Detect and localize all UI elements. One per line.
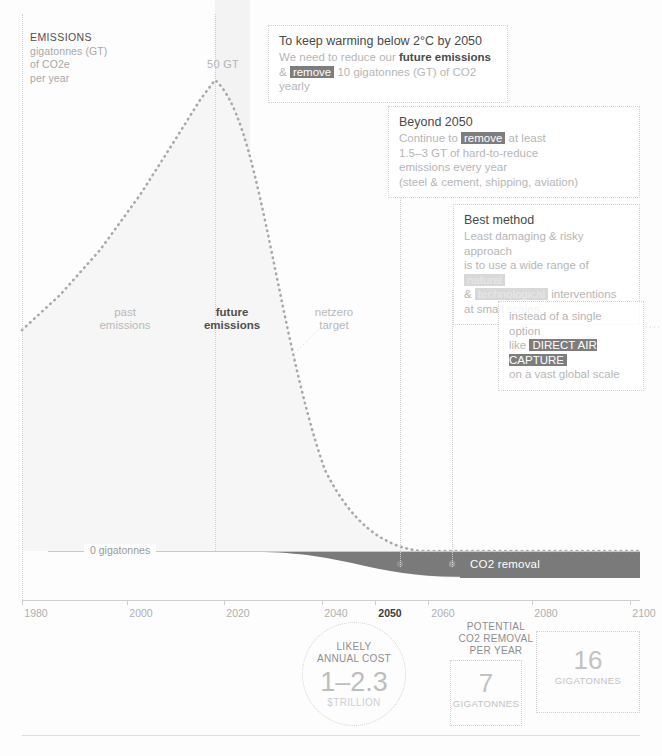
callout-best-line3-a: is to use a wide range of <box>464 259 589 271</box>
region-netzero-line1: netzero <box>291 306 377 319</box>
callout-warming-line3-a: & <box>279 66 290 78</box>
guide-left-edge <box>22 14 23 602</box>
callout-warming-line3: & remove 10 gigatonnes (GT) of CO2 yearl… <box>279 65 497 94</box>
callout-beyond-line4: emissions every year <box>399 160 629 175</box>
callout-best-line4-b: interventions <box>548 288 616 300</box>
x-tick-2080 <box>532 600 533 605</box>
callout-best-line4: & technological interventions <box>464 287 629 302</box>
x-tick-2020 <box>224 600 225 605</box>
callout-beyond-line2: Continue to remove at least <box>399 131 629 146</box>
x-tick-2000 <box>127 600 128 605</box>
x-label-2060: 2060 <box>431 607 454 619</box>
region-label-netzero: netzero target <box>291 306 377 332</box>
region-label-future: future emissions <box>179 306 285 332</box>
callout-dac-line2: like DIRECT AIR CAPTURE <box>509 338 633 367</box>
cost-caption-line1: LIKELY <box>303 641 405 653</box>
callout-beyond-line2-b: at least <box>505 132 545 144</box>
x-label-2050: 2050 <box>378 607 401 619</box>
highlight-natural: natural <box>464 274 505 286</box>
callout-best-heading: Best method <box>464 212 629 228</box>
co2-removal-band-label: CO2 removal <box>470 558 540 570</box>
callout-best-line2: Least damaging & risky approach <box>464 229 629 258</box>
x-tick-2060 <box>428 600 429 605</box>
axis-title-line2: gigatonnes (GT) <box>30 45 107 59</box>
callout-direct-air-capture[interactable]: instead of a single option like DIRECT A… <box>498 301 644 391</box>
netzero-leader-line <box>288 330 318 360</box>
region-future-line2: emissions <box>179 319 285 332</box>
removal-low-unit: GIGATONNES <box>451 698 521 709</box>
removal-low-stat: 7 GIGATONNES <box>450 660 522 726</box>
removal-high-stat: 16 GIGATONNES <box>536 631 640 713</box>
region-past-line1: past <box>72 306 178 319</box>
callout-best-line3: is to use a wide range of natural <box>464 258 629 287</box>
removal-low-value: 7 <box>451 668 521 698</box>
callout-warming-2050[interactable]: To keep warming below 2°C by 2050 We nee… <box>268 25 508 103</box>
guide-2050 <box>400 185 401 567</box>
x-tick-2100 <box>630 600 631 605</box>
region-label-past: past emissions <box>72 306 178 332</box>
highlight-remove-1: remove <box>290 66 334 78</box>
callout-beyond-2050[interactable]: Beyond 2050 Continue to remove at least … <box>388 106 640 198</box>
x-tick-2040 <box>322 600 323 605</box>
x-label-2020: 2020 <box>226 607 249 619</box>
axis-title-line1: EMISSIONS <box>30 31 107 45</box>
callout-dac-line2-a: like <box>509 339 529 351</box>
x-label-2080: 2080 <box>534 607 557 619</box>
highlight-remove-2: remove <box>461 132 505 144</box>
region-past-line2: emissions <box>72 319 178 332</box>
callout-warming-heading: To keep warming below 2°C by 2050 <box>279 33 497 49</box>
region-netzero-line2: target <box>291 319 377 332</box>
footer-divider <box>22 735 640 736</box>
callout-beyond-line2-a: Continue to <box>399 132 461 144</box>
zero-gigatonnes-label: 0 gigatonnes <box>84 544 156 556</box>
axis-title-line4: per year <box>30 72 107 86</box>
peak-value-label: 50 GT <box>207 58 239 70</box>
callout-best-line4-a: & <box>464 288 475 300</box>
callout-warming-line2-a: We need to reduce our <box>279 51 399 63</box>
cost-unit: $TRILLION <box>303 697 405 708</box>
callout-warming-line2: We need to reduce our future emissions <box>279 50 497 65</box>
x-axis-line <box>22 600 640 601</box>
x-label-1980: 1980 <box>24 607 47 619</box>
x-tick-2050 <box>375 600 376 605</box>
x-label-2000: 2000 <box>129 607 152 619</box>
callout-warming-line2-b: future emissions <box>399 51 491 63</box>
cost-value: 1–2.3 <box>303 667 405 697</box>
region-future-line1: future <box>179 306 285 319</box>
highlight-technological: technological <box>475 288 548 300</box>
axis-title-line3: of CO2e <box>30 58 107 72</box>
x-tick-1980 <box>22 600 23 605</box>
x-label-2100: 2100 <box>632 607 655 619</box>
callout-beyond-line5: (steel & cement, shipping, aviation) <box>399 175 629 190</box>
callout-dac-line3: on a vast global scale <box>509 367 633 382</box>
removal-high-value: 16 <box>537 645 639 675</box>
cost-caption-line2: ANNUAL COST <box>303 653 405 665</box>
likely-annual-cost-stat: LIKELY ANNUAL COST 1–2.3 $TRILLION <box>302 622 406 726</box>
callout-dac-line1: instead of a single option <box>509 309 633 338</box>
guide-2020 <box>215 14 216 551</box>
removal-high-unit: GIGATONNES <box>537 675 639 686</box>
callout-beyond-heading: Beyond 2050 <box>399 114 629 130</box>
guide-2060 <box>452 290 453 567</box>
chart-axis-title: EMISSIONS gigatonnes (GT) of CO2e per ye… <box>30 31 107 85</box>
callout-beyond-line3: 1.5–3 GT of hard-to-reduce <box>399 146 629 161</box>
x-label-2040: 2040 <box>324 607 347 619</box>
